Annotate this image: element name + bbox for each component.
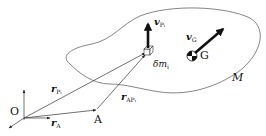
mass-element-subscript: i xyxy=(167,63,169,70)
v-G-subscript: G xyxy=(192,36,197,43)
vector-r-A xyxy=(24,110,96,118)
diagram-canvas xyxy=(0,0,266,136)
label-v-Pi: vPi xyxy=(154,17,165,28)
label-mass-element: δmi xyxy=(153,60,169,70)
r-A-subscript: A xyxy=(56,122,60,129)
mass-element-symbol: δm xyxy=(153,59,167,69)
label-point-g: G xyxy=(200,50,209,61)
v-Pi-subsub: i xyxy=(164,23,165,28)
label-point-a: A xyxy=(94,114,102,125)
axis-diagonal xyxy=(9,118,24,128)
label-v-G: vG xyxy=(186,32,197,43)
label-r-Pi: rPi xyxy=(51,84,62,95)
r-APi-subscript: AP xyxy=(126,96,134,103)
label-origin: O xyxy=(10,106,19,117)
r-Pi-subsub: i xyxy=(60,90,61,95)
label-body-m: M xyxy=(232,72,243,83)
label-r-A: rA xyxy=(51,118,61,129)
label-r-APi: rAPi xyxy=(121,92,136,103)
r-APi-subsub: i xyxy=(135,98,136,103)
